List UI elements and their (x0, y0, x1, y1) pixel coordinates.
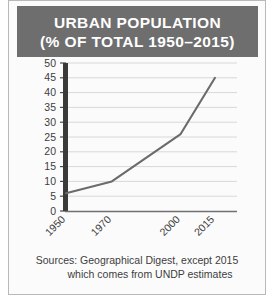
y-axis-tick-label: 0 (50, 205, 56, 217)
line-chart-svg: 05101520253035404550 1950197020002015 (9, 57, 265, 239)
caption-line-1: Sources: Geographical Digest, except 201… (9, 253, 265, 267)
caption-line-2: which comes from UNDP estimates (9, 267, 265, 281)
y-axis-tick-label: 40 (44, 86, 56, 98)
chart-caption: Sources: Geographical Digest, except 201… (9, 253, 265, 281)
chart-plot-area: 05101520253035404550 1950197020002015 (9, 57, 265, 239)
y-axis-tick-label: 50 (44, 57, 56, 69)
x-axis-tick-label: 1970 (88, 213, 113, 238)
x-axis-tick-labels: 1950197020002015 (42, 213, 216, 238)
x-axis-tick-label: 1950 (42, 213, 67, 238)
y-axis-tick-label: 20 (44, 145, 56, 157)
y-axis-tick-label: 10 (44, 175, 56, 187)
chart-title-bar: URBAN POPULATION (% OF TOTAL 1950–2015) (17, 6, 258, 57)
y-axis-tick-label: 5 (50, 190, 56, 202)
y-axis-tick-label: 45 (44, 71, 56, 83)
y-axis-tick-label: 15 (44, 160, 56, 172)
data-series-line (66, 78, 215, 193)
y-axis-tick-label: 30 (44, 116, 56, 128)
chart-title-line-1: URBAN POPULATION (54, 13, 221, 32)
chart-title-line-2: (% OF TOTAL 1950–2015) (40, 32, 235, 51)
y-axis-tick-label: 35 (44, 101, 56, 113)
x-axis-tick-label: 2015 (191, 213, 216, 238)
x-axis-tick-label: 2000 (157, 213, 182, 238)
y-axis-tick-labels: 05101520253035404550 (44, 57, 56, 217)
y-axis-tick-label: 25 (44, 131, 56, 143)
chart-figure: URBAN POPULATION (% OF TOTAL 1950–2015) … (8, 0, 266, 295)
